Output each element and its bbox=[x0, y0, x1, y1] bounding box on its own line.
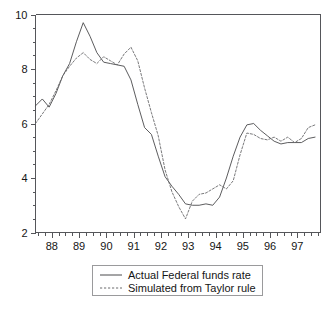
legend-label-simulated: Simulated from Taylor rule bbox=[128, 282, 256, 294]
x-tick-label: 95 bbox=[237, 240, 249, 252]
x-tick-label: 90 bbox=[100, 240, 112, 252]
x-tick-label: 92 bbox=[155, 240, 167, 252]
x-tick-label: 97 bbox=[291, 240, 303, 252]
plot-axes bbox=[36, 15, 321, 233]
series-line-simulated-taylor-rule bbox=[36, 47, 316, 219]
x-axis-ticks: 88899091929394959697 bbox=[39, 233, 319, 252]
x-tick-label: 96 bbox=[264, 240, 276, 252]
x-tick-label: 93 bbox=[182, 240, 194, 252]
x-tick-label: 91 bbox=[128, 240, 140, 252]
y-tick-label: 2 bbox=[21, 227, 27, 239]
legend-label-actual: Actual Federal funds rate bbox=[128, 269, 251, 281]
y-tick-label: 6 bbox=[21, 118, 27, 130]
x-tick-label: 89 bbox=[73, 240, 85, 252]
series-line-actual-federal-funds-rate bbox=[36, 23, 316, 206]
line-chart: 108642 88899091929394959697 Actual Feder… bbox=[0, 0, 334, 309]
chart-figure: 108642 88899091929394959697 Actual Feder… bbox=[0, 0, 334, 309]
y-axis-ticks: 108642 bbox=[15, 9, 35, 239]
y-tick-label: 4 bbox=[21, 172, 27, 184]
x-tick-label: 88 bbox=[46, 240, 58, 252]
y-tick-label: 10 bbox=[15, 9, 27, 21]
chart-legend: Actual Federal funds rate Simulated from… bbox=[93, 266, 263, 296]
x-tick-label: 94 bbox=[209, 240, 221, 252]
y-tick-label: 8 bbox=[21, 63, 27, 75]
